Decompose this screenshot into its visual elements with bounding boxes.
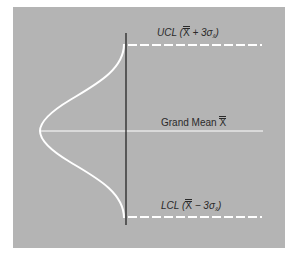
control-chart-graphics — [0, 0, 302, 257]
lcl-suffix: ) — [218, 200, 221, 211]
mean-xbar: X — [219, 117, 226, 128]
lcl-prefix: LCL ( — [161, 200, 185, 211]
lcl-op: − 3σ — [192, 200, 215, 211]
lcl-xbar: X — [185, 200, 192, 211]
grand-mean-label: Grand Mean X — [161, 117, 226, 128]
ucl-prefix: UCL ( — [157, 27, 183, 38]
ucl-label: UCL (X + 3σx̄) — [157, 27, 219, 39]
lcl-label: LCL (X − 3σx̄) — [161, 200, 221, 212]
ucl-suffix: ) — [216, 27, 219, 38]
ucl-op: + 3σ — [190, 27, 213, 38]
mean-prefix: Grand Mean — [161, 117, 219, 128]
ucl-xbar: X — [183, 27, 190, 38]
